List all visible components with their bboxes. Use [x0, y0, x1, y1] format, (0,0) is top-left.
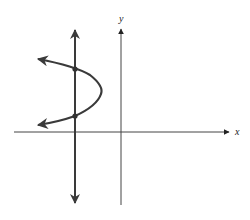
- parabola-curve: [38, 59, 102, 125]
- x-axis-label: x: [234, 126, 240, 137]
- y-axis-label: y: [118, 13, 124, 24]
- intersection-point-upper: [72, 66, 77, 71]
- intersection-point-lower: [72, 113, 77, 118]
- diagram-canvas: y x: [0, 0, 250, 220]
